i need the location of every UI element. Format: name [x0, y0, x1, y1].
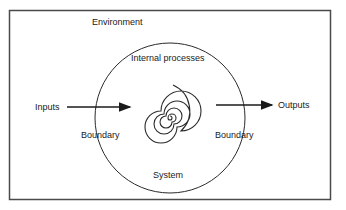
inputs-label: Inputs: [35, 102, 60, 112]
system-diagram: Environment Internal processes Inputs Ou…: [0, 0, 346, 210]
internal-processes-spiral: [145, 85, 201, 143]
environment-label: Environment: [92, 17, 143, 27]
system-label: System: [153, 170, 183, 180]
boundary-left-label: Boundary: [81, 130, 120, 140]
internal-processes-label: Internal processes: [131, 53, 205, 63]
boundary-right-label: Boundary: [215, 130, 254, 140]
outputs-label: Outputs: [278, 100, 310, 110]
